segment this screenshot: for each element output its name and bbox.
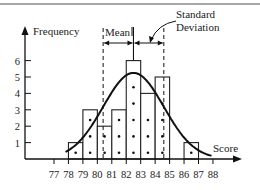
y-tick-label: 2 — [15, 121, 20, 132]
x-tick-label: 88 — [208, 169, 219, 180]
data-dot — [132, 119, 135, 122]
data-dot — [118, 135, 121, 138]
x-axis-label: Score — [213, 142, 238, 154]
data-dot — [147, 135, 150, 138]
data-dot — [147, 152, 150, 155]
data-dot — [161, 119, 164, 122]
x-tick-label: 78 — [63, 169, 74, 180]
y-tick-label: 5 — [15, 72, 20, 83]
data-dot — [103, 152, 106, 155]
histogram-chart: 777879808182838485868788123456 Frequency… — [0, 0, 260, 190]
histogram-figure: 777879808182838485868788123456 Frequency… — [0, 0, 260, 190]
data-dot — [190, 152, 193, 155]
data-dot — [161, 135, 164, 138]
std-label-line2: Deviation — [176, 21, 220, 33]
data-dot — [118, 152, 121, 155]
data-dot — [132, 102, 135, 105]
histogram-bar — [155, 77, 169, 159]
x-tick-label: 82 — [121, 169, 132, 180]
data-dot — [103, 135, 106, 138]
data-dot — [132, 135, 135, 138]
x-tick-label: 83 — [135, 169, 146, 180]
y-tick-label: 6 — [15, 56, 20, 67]
y-tick-label: 3 — [15, 105, 20, 116]
x-tick-label: 79 — [78, 169, 89, 180]
x-tick-label: 77 — [49, 169, 60, 180]
x-tick-label: 86 — [179, 169, 190, 180]
y-axis-arrow-icon — [22, 26, 29, 35]
data-dot — [132, 152, 135, 155]
data-dot — [132, 86, 135, 89]
mean-label: Mean — [105, 26, 131, 38]
arrowhead-icon — [127, 41, 132, 46]
data-dot — [89, 119, 92, 122]
histogram-bar — [141, 93, 155, 159]
arrowhead-icon — [104, 41, 109, 46]
x-tick-label: 81 — [107, 169, 118, 180]
data-dot — [147, 119, 150, 122]
x-tick-label: 84 — [150, 169, 161, 180]
x-tick-label: 87 — [193, 169, 204, 180]
std-pointer-arrow-icon — [149, 36, 154, 43]
x-tick-label: 80 — [92, 169, 103, 180]
arrowhead-icon — [134, 41, 139, 46]
data-dot — [161, 152, 164, 155]
data-dot — [118, 119, 121, 122]
histogram-bar — [126, 61, 140, 159]
data-dot — [89, 152, 92, 155]
data-dot — [74, 152, 77, 155]
x-tick-label: 85 — [164, 169, 175, 180]
x-axis-arrow-icon — [233, 156, 242, 163]
std-label-line1: Standard — [176, 8, 216, 20]
y-tick-label: 1 — [15, 138, 20, 149]
y-tick-label: 4 — [15, 88, 21, 99]
data-dot — [89, 135, 92, 138]
arrowhead-icon — [158, 41, 163, 46]
y-axis-label: Frequency — [33, 25, 80, 37]
bars-group — [68, 61, 198, 159]
